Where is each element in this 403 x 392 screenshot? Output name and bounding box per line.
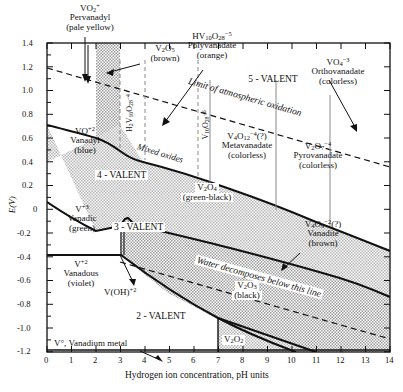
x-tick-label: 14 [385,355,394,365]
pourbaix-diagram-figure: 1.4 1.2 1.0 0.8 0.6 0.4 0.2 0 -0.2 -0.4 … [0,0,403,392]
x-tick-label: 10 [287,355,296,365]
arrowhead-vmetal [155,355,163,362]
label-h2v10o28: H2V10O28−4 [125,83,135,143]
formula-v2o2: V2O2 [222,335,245,345]
x-tick-label: 5 [167,355,171,365]
x-tick-label: 9 [265,355,269,365]
name-vanadite: Vanadite [307,228,339,238]
formula-vo2-plus: VO2+ [80,3,100,13]
arrowhead-voh2 [129,279,136,286]
formula-voh-plus2: V(OH)+2 [104,287,136,297]
y-tick-label: 1.2 [22,62,33,72]
label-v2o2: V2O2 [222,335,245,345]
leader-orthovanadate [329,80,355,127]
color-colorless-meta: (colorless) [228,150,266,160]
formula-v4o9: V4O9−2(?) [305,219,341,229]
text-4-valent: 4 - VALENT [95,170,148,180]
label-vo4-3: VO4−3 Orthovanadate (colorless) [300,56,376,87]
color-colorless-pyro: (colorless) [299,160,337,170]
formula-vo-plus2: VO+2 [75,126,95,136]
name-pervanadyl: Pervanadyl [70,12,111,22]
x-tick-label: 13 [361,355,370,365]
x-tick-label: 3 [118,355,122,365]
color-green-black: (green-black) [181,193,233,203]
formula-h2v10o28: H2V10O28−4 [125,94,134,132]
y-tick-label: 1.0 [22,85,33,95]
y-tick-label: -0.8 [17,299,31,309]
x-tick-label: 2 [93,355,97,365]
y-tick-label: 1.4 [22,38,33,48]
color-pale-yellow: (pale yellow) [66,22,114,32]
region-v2o5 [96,43,120,138]
color-colorless-ortho: (colorless) [319,76,357,86]
x-tick-label: 7 [216,355,220,365]
x-tick-label: 12 [336,355,345,365]
x-tick-label: 6 [191,355,195,365]
y-tick-label: -1.0 [17,323,31,333]
label-v2o7: V2O7−4 Pyrovanadate (colorless) [284,140,352,171]
y-axis-title: E(V) [8,185,18,225]
x-tick-label: 11 [312,355,320,365]
label-v4o12: V4O12−4(?) Metavanadate (colorless) [212,130,282,161]
label-hv10o28: HV10O28−5 Polyvanadate (orange) [175,30,249,61]
name-metavanadate: Metavanadate [222,140,272,150]
x-tick-label: 4 [142,355,146,365]
color-blue: (blue) [74,145,96,155]
label-2-valent: 2 - VALENT [130,311,192,321]
label-v2o4: V2O4 (green-black) [176,183,238,202]
x-axis-title: Hydrogen ion concentration, pH units [125,370,269,380]
arrowhead-polyvanadate [162,117,170,126]
x-tick-label: 1 [69,355,73,365]
name-vanadyl: Vanadyl [70,135,100,145]
name-orthovanadate: Orthovanadate [312,66,365,76]
y-tick-label: 0.6 [22,133,33,143]
name-polyvanadate: Polyvanadate [188,40,237,50]
formula-v2o5: V2O5 [155,43,174,53]
text-vanadium-metal: Vanadium metal [68,338,127,348]
formula-v10o28: V10O28−6 [201,110,210,139]
label-v-metal: V°, Vanadium metal [54,339,127,349]
x-tick-label: 0 [44,355,48,365]
formula-v4o12: V4O12−4(?) [227,131,267,141]
label-v10o28: V10O28−6 [201,97,211,153]
formula-hv10o28: HV10O28−5 [192,31,231,41]
label-v-plus2: V+2 Vanadous (violet) [54,258,108,289]
label-vo2-plus: VO2+ Pervanadyl (pale yellow) [54,2,126,33]
label-v-plus3: V+3 Vanadic (green) [57,203,107,234]
color-violet: (violet) [68,278,95,288]
name-vanadous: Vanadous [64,268,99,278]
y-tick-label: 0.2 [22,180,33,190]
name-pyrovanadate: Pyrovanadate [294,150,343,160]
label-v2o3: V2O3 (black) [225,281,269,300]
label-4-valent: 4 - VALENT [95,170,148,180]
formula-vo4-3: VO4−3 [326,57,349,67]
y-tick-label: -1.2 [17,346,31,356]
y-tick-label: -0.4 [17,252,31,262]
name-vanadic: Vanadic [68,213,97,223]
label-v4o9: V4O9−2(?) Vanadite (brown) [290,218,356,249]
label-vo-plus2: VO+2 Vanadyl (blue) [60,125,110,156]
formula-v2o7: V2O7−4 [305,141,331,151]
formula-v-metal: V°, [54,338,68,348]
x-tick-label: 8 [240,355,244,365]
label-3-valent: 3 - VALENT [112,222,165,232]
label-5-valent: 5 - VALENT [241,74,305,84]
y-tick-label: -0.6 [17,275,31,285]
color-brown-vanadite: (brown) [309,238,338,248]
y-tick-label: 0.8 [22,109,33,119]
text-3-valent: 3 - VALENT [112,222,165,232]
formula-v-plus2: V+2 [74,259,87,269]
y-tick-label: -0.2 [17,228,31,238]
color-orange: (orange) [197,50,227,60]
color-green: (green) [69,223,95,233]
formula-v-plus3: V+3 [75,204,88,214]
y-tick-label: 0.4 [22,157,33,167]
color-black-v2o3: (black) [232,291,261,301]
arrowhead-orthovanadate [350,124,357,132]
y-tick-label: 0 [33,204,37,214]
label-voh-plus2: V(OH)+2 [104,286,136,297]
